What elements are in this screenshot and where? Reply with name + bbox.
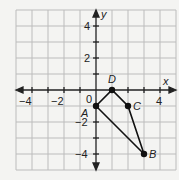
x-axis-label: x: [162, 75, 169, 87]
point-label-b: B: [149, 148, 156, 160]
coordinate-plane: x y −4 −2 4 0 4 2 −2 −4 A B C D: [0, 0, 179, 180]
x-tick-label: 4: [156, 95, 162, 107]
point-a: [93, 103, 99, 109]
point-d: [109, 87, 115, 93]
point-label-c: C: [133, 100, 141, 112]
origin-label: 0: [86, 93, 92, 105]
x-tick-label: −4: [19, 95, 32, 107]
point-b: [141, 151, 147, 157]
point-c: [125, 103, 131, 109]
y-tick-label: 2: [84, 52, 90, 64]
point-label-a: A: [80, 107, 88, 119]
point-label-d: D: [108, 73, 116, 85]
y-tick-label: 4: [84, 20, 90, 32]
y-tick-label: −4: [75, 148, 88, 160]
x-tick-label: −2: [51, 95, 64, 107]
